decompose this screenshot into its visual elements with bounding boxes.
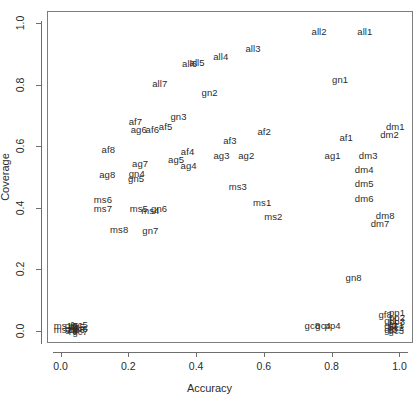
data-point-label: gn8 <box>346 273 362 283</box>
y-tick-mark <box>36 23 41 24</box>
data-point-label: dm6 <box>355 194 374 204</box>
scatter-plot-figure: all1all2all3all4all5all6all7gn1gn2gn3af7… <box>0 0 419 414</box>
y-tick-mark <box>36 146 41 147</box>
data-point-label: ms3 <box>229 182 247 192</box>
data-point-label: af6 <box>146 125 160 135</box>
x-tick-mark <box>196 352 197 357</box>
data-point-label: gn7 <box>142 226 158 236</box>
data-point-label: af5 <box>159 122 173 132</box>
x-tick-label: 0.2 <box>121 360 136 372</box>
data-point-label: af2 <box>257 127 271 137</box>
data-point-label: gn5 <box>128 174 144 184</box>
y-tick-label: 0.0 <box>14 323 26 338</box>
data-point-label: af8 <box>102 145 116 155</box>
x-tick-label: 1.0 <box>392 360 407 372</box>
data-point-label: dm3 <box>359 151 378 161</box>
x-tick-label: 0.4 <box>189 360 204 372</box>
data-point-label: af4 <box>181 147 195 157</box>
data-point-label: dm2 <box>380 130 399 140</box>
data-point-label: pp6 <box>69 325 85 335</box>
x-tick-label: 0.0 <box>53 360 68 372</box>
data-point-label: all1 <box>357 27 372 37</box>
plot-title <box>0 0 419 5</box>
x-axis-title: Accuracy <box>0 382 419 394</box>
y-tick-label: 1.0 <box>14 16 26 31</box>
y-axis-line <box>41 21 42 344</box>
data-point-label: all3 <box>245 44 260 54</box>
x-tick-mark <box>264 352 265 357</box>
data-point-label: pp4 <box>325 321 341 331</box>
data-point-label: ms7 <box>94 204 112 214</box>
data-point-label: ms2 <box>264 212 282 222</box>
data-point-label: ag3 <box>213 151 229 161</box>
y-tick-mark <box>36 85 41 86</box>
data-point-label: ms8 <box>110 225 128 235</box>
y-tick-label: 0.2 <box>14 262 26 277</box>
y-tick-mark <box>36 269 41 270</box>
data-point-label: ag6 <box>131 125 147 135</box>
x-tick-label: 0.8 <box>324 360 339 372</box>
data-point-label: af3 <box>223 136 237 146</box>
data-point-label: ag4 <box>181 161 197 171</box>
x-tick-mark <box>61 352 62 357</box>
x-tick-mark <box>399 352 400 357</box>
x-axis-line <box>53 352 408 353</box>
data-point-label: all2 <box>312 27 327 37</box>
y-axis-title: Coverage <box>0 153 11 201</box>
data-point-label: gn1 <box>332 75 348 85</box>
data-point-label: all4 <box>213 52 228 62</box>
data-point-label: all7 <box>152 79 167 89</box>
data-point-label: gn6 <box>151 204 167 214</box>
plot-panel: all1all2all3all4all5all6all7gn1gn2gn3af7… <box>47 11 413 343</box>
x-tick-mark <box>128 352 129 357</box>
data-point-label: ms1 <box>253 198 271 208</box>
data-point-label: gf3 <box>384 325 398 335</box>
data-point-label: af1 <box>339 133 353 143</box>
data-point-label: dm7 <box>371 219 390 229</box>
data-point-label: dm4 <box>355 165 374 175</box>
y-tick-label: 0.6 <box>14 139 26 154</box>
data-point-label: gn2 <box>202 88 218 98</box>
data-point-label: all6 <box>182 59 197 69</box>
data-point-label: ag8 <box>99 170 115 180</box>
data-point-label: ag2 <box>238 151 254 161</box>
data-point-label: dm5 <box>355 179 374 189</box>
y-tick-label: 0.4 <box>14 200 26 215</box>
data-point-label: ag1 <box>325 151 341 161</box>
y-tick-mark <box>36 331 41 332</box>
x-tick-label: 0.6 <box>257 360 272 372</box>
y-tick-label: 0.8 <box>14 77 26 92</box>
x-tick-mark <box>332 352 333 357</box>
y-tick-mark <box>36 208 41 209</box>
data-point-label: gn3 <box>170 112 186 122</box>
